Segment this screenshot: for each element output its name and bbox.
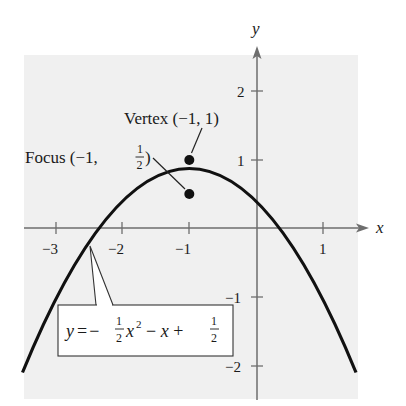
svg-text:2: 2 (211, 331, 217, 345)
svg-text:− x +: − x + (146, 321, 183, 341)
parabola-figure: x y −3 −2 −1 1 2 1 −1 −2 Vertex (−1, 1) … (0, 0, 406, 406)
svg-text:Focus (−1,: Focus (−1, (25, 148, 98, 167)
x-tick-label: 1 (319, 241, 327, 257)
y-tick-label: −1 (225, 290, 241, 306)
x-tick-label: −2 (108, 241, 124, 257)
x-axis-label: x (375, 218, 384, 237)
svg-text:y=−: y=− (64, 321, 99, 341)
y-tick-label: 2 (237, 84, 245, 100)
svg-text:2: 2 (137, 158, 143, 172)
svg-text:1: 1 (137, 142, 143, 156)
svg-text:2: 2 (136, 318, 142, 330)
vertex-label: Vertex (−1, 1) (124, 109, 219, 128)
vertex-point (184, 155, 194, 165)
svg-text:1: 1 (211, 314, 217, 328)
y-tick-label: 1 (237, 153, 245, 169)
svg-text:): ) (145, 148, 151, 167)
x-tick-label: −1 (175, 241, 191, 257)
x-tick-label: −3 (42, 241, 58, 257)
svg-text:x: x (125, 321, 134, 341)
focus-point (184, 189, 194, 199)
y-tick-label: −2 (225, 359, 241, 375)
svg-text:2: 2 (116, 331, 122, 345)
svg-text:1: 1 (116, 314, 122, 328)
y-axis-label: y (250, 19, 260, 38)
